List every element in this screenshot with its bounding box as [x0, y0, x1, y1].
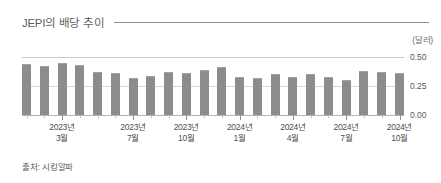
x-tick-minor [328, 115, 329, 118]
bar-slot [40, 57, 49, 115]
x-tick-major [62, 115, 63, 120]
bar-slot [306, 57, 315, 115]
x-axis-label-year: 2023년 [39, 122, 85, 133]
x-tick-major [133, 115, 134, 120]
x-tick-major [346, 115, 347, 120]
bar-slot [111, 57, 120, 115]
bar [58, 63, 67, 115]
bar [182, 73, 191, 115]
x-tick-minor [382, 115, 383, 118]
x-axis-label: 2024년1월 [217, 122, 263, 144]
x-axis-label: 2023년10월 [163, 122, 209, 144]
bar [235, 77, 244, 115]
x-tick-minor [222, 115, 223, 118]
x-axis-label-year: 2023년 [110, 122, 156, 133]
x-axis-label: 2024년10월 [377, 122, 423, 144]
bar-slot [342, 57, 351, 115]
bar [111, 73, 120, 115]
bar [129, 78, 138, 115]
bar-slot [395, 57, 404, 115]
bar [146, 76, 155, 115]
bar [342, 80, 351, 115]
x-tick-minor [204, 115, 205, 118]
bar [22, 64, 31, 115]
x-axis-label-month: 7월 [323, 133, 369, 144]
x-axis-label-month: 3월 [39, 133, 85, 144]
bar [40, 66, 49, 115]
x-tick-minor [311, 115, 312, 118]
bar [253, 78, 262, 115]
bar [217, 67, 226, 115]
bar-slot [200, 57, 209, 115]
chart-title-row: JEPI의 배당 추이 [22, 14, 429, 30]
title-divider [114, 22, 429, 23]
bar-slot [22, 57, 31, 115]
x-tick-minor [169, 115, 170, 118]
x-axis-label: 2024년4월 [270, 122, 316, 144]
x-tick-minor [27, 115, 28, 118]
x-tick-minor [257, 115, 258, 118]
x-tick-minor [80, 115, 81, 118]
x-axis-labels: 2023년3월2023년7월2023년10월2024년1월2024년4월2024… [0, 122, 441, 152]
x-axis-label-year: 2024년 [377, 122, 423, 133]
bar-slot [146, 57, 155, 115]
bar [306, 74, 315, 115]
bar [359, 71, 368, 115]
x-axis-ticks [22, 115, 404, 121]
x-tick-major [400, 115, 401, 120]
bar-slot [324, 57, 333, 115]
bar [324, 77, 333, 115]
x-axis-label-month: 1월 [217, 133, 263, 144]
bar [75, 65, 84, 115]
y-tick-025: 0.25 [410, 81, 427, 91]
x-axis-label-month: 10월 [377, 133, 423, 144]
chart-figure: JEPI의 배당 추이 (달러) 0.50 0.25 0.00 2023년3월2… [0, 0, 441, 183]
x-tick-major [240, 115, 241, 120]
bar [200, 70, 209, 115]
bar-series [22, 57, 404, 115]
x-axis-label-month: 4월 [270, 133, 316, 144]
x-axis-label-month: 7월 [110, 133, 156, 144]
bar-slot [164, 57, 173, 115]
x-tick-minor [275, 115, 276, 118]
plot-area [22, 57, 404, 115]
bar [288, 77, 297, 115]
bar-slot [217, 57, 226, 115]
source-note: 출처: 시킹알파 [22, 160, 73, 172]
y-axis-unit-label: (달러) [412, 33, 433, 45]
x-axis-label: 2023년7월 [110, 122, 156, 144]
bar-slot [182, 57, 191, 115]
bar-slot [359, 57, 368, 115]
x-tick-major [186, 115, 187, 120]
bar-slot [271, 57, 280, 115]
bar-slot [75, 57, 84, 115]
x-axis-label-month: 10월 [163, 133, 209, 144]
x-axis-label-year: 2023년 [163, 122, 209, 133]
page-title: JEPI의 배당 추이 [22, 14, 104, 30]
bar [164, 72, 173, 115]
bar [271, 74, 280, 115]
bar [395, 73, 404, 115]
x-axis-label-year: 2024년 [323, 122, 369, 133]
x-axis-label: 2023년3월 [39, 122, 85, 144]
bar [377, 72, 386, 115]
bar [93, 72, 102, 115]
x-tick-major [293, 115, 294, 120]
x-axis-label-year: 2024년 [217, 122, 263, 133]
x-tick-minor [151, 115, 152, 118]
bar-slot [58, 57, 67, 115]
x-tick-minor [98, 115, 99, 118]
y-tick-000: 0.00 [410, 110, 427, 120]
x-tick-minor [44, 115, 45, 118]
x-tick-minor [115, 115, 116, 118]
bar-slot [253, 57, 262, 115]
x-axis-label: 2024년7월 [323, 122, 369, 144]
bar-slot [93, 57, 102, 115]
x-axis-label-year: 2024년 [270, 122, 316, 133]
bar-slot [129, 57, 138, 115]
x-tick-minor [364, 115, 365, 118]
bar-slot [288, 57, 297, 115]
y-tick-050: 0.50 [410, 52, 427, 62]
bar-slot [235, 57, 244, 115]
bar-slot [377, 57, 386, 115]
